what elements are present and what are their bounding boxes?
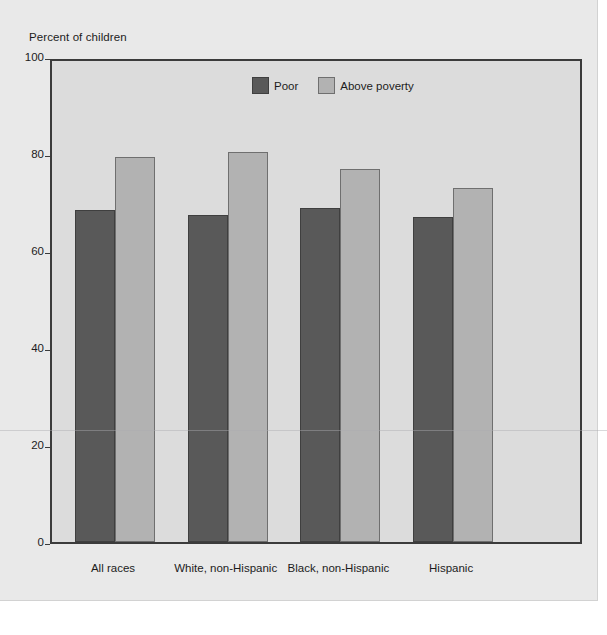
scan-artifact: [0, 430, 607, 431]
y-axis-tick-label: 20: [0, 439, 44, 451]
bar-poor: [300, 208, 340, 542]
legend-label: Above poverty: [340, 80, 414, 92]
legend-swatch-icon: [252, 77, 269, 94]
bar-above-poverty: [115, 157, 155, 542]
legend-label: Poor: [274, 80, 298, 92]
legend-swatch-icon: [318, 77, 335, 94]
bar-poor: [75, 210, 115, 542]
legend-item: Poor: [252, 77, 298, 94]
y-axis-tick-label: 40: [0, 342, 44, 354]
y-axis-title: Percent of children: [29, 31, 127, 43]
x-axis-tick-label: Black, non-Hispanic: [288, 562, 390, 574]
x-axis-tick-label: All races: [91, 562, 135, 574]
bar-above-poverty: [340, 169, 380, 542]
x-axis-tick-label: Hispanic: [429, 562, 473, 574]
chart-figure: Percent of children 020406080100 PoorAbo…: [0, 0, 607, 635]
bar-poor: [188, 215, 228, 542]
y-axis-tick-label: 60: [0, 245, 44, 257]
y-axis-tick-mark: [45, 544, 50, 545]
bars-container: [52, 61, 580, 542]
chart-legend: PoorAbove poverty: [252, 77, 428, 94]
y-axis-tick-label: 0: [0, 536, 44, 548]
x-axis-tick-label: White, non-Hispanic: [174, 562, 277, 574]
bar-above-poverty: [228, 152, 268, 542]
bar-poor: [413, 217, 453, 542]
bar-above-poverty: [453, 188, 493, 542]
legend-item: Above poverty: [318, 77, 414, 94]
y-axis-tick-label: 100: [0, 51, 44, 63]
y-axis-tick-label: 80: [0, 148, 44, 160]
plot-area: PoorAbove poverty: [50, 59, 582, 544]
